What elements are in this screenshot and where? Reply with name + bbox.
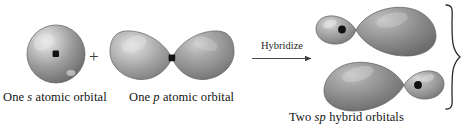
plus-operator: + [89, 48, 99, 65]
caption-p-suffix: atomic orbital [160, 90, 234, 104]
sp-hybrid-orbital-lower-graphic [324, 62, 444, 111]
p-atomic-orbital-graphic [110, 31, 234, 80]
orbital-hybridization-figure: + Hybridize One s atomic orbital One p a… [0, 0, 464, 126]
caption-sp-prefix: Two [289, 110, 315, 124]
grouping-brace [446, 5, 460, 109]
s-atomic-orbital-graphic [27, 25, 85, 83]
caption-p-orbital: One p atomic orbital [129, 90, 234, 104]
caption-p-prefix: One [129, 90, 153, 104]
caption-sp-suffix: hybrid orbitals [326, 110, 404, 124]
hybridize-label: Hybridize [261, 40, 303, 52]
sp-hybrid-orbital-upper-graphic [316, 7, 436, 56]
caption-s-prefix: One [3, 90, 27, 104]
nucleus-dot-p [169, 55, 176, 62]
nucleus-dot-sp-lower [414, 81, 422, 89]
caption-s-suffix: atomic orbital [32, 90, 106, 104]
caption-s-orbital: One s atomic orbital [3, 90, 107, 104]
nucleus-dot-s [53, 51, 59, 57]
nucleus-dot-sp-upper [338, 26, 346, 34]
caption-sp-symbol: sp [315, 110, 326, 124]
orbital-diagram-svg [0, 0, 464, 126]
caption-sp-hybrid-orbitals: Two sp hybrid orbitals [289, 110, 404, 124]
